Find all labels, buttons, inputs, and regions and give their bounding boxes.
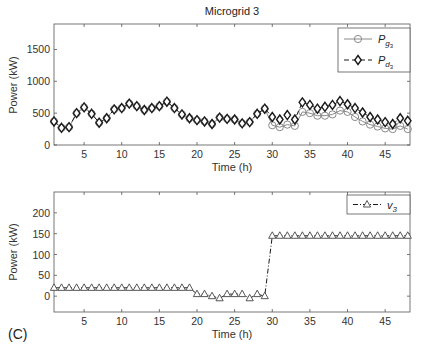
triangle-marker: [156, 284, 163, 290]
diamond-marker: [329, 100, 335, 109]
triangle-marker: [58, 284, 65, 290]
series-v-3: [50, 232, 411, 301]
triangle-marker: [178, 284, 185, 290]
x-axis-label: Time (h): [212, 161, 253, 173]
diamond-marker: [322, 102, 328, 111]
x-tick-label: 25: [229, 315, 241, 327]
x-tick-label: 30: [266, 315, 278, 327]
x-tick-label: 15: [154, 315, 166, 327]
diamond-marker: [389, 119, 395, 128]
series-p-g3: [50, 98, 411, 133]
y-tick-label: 0: [44, 139, 50, 151]
figure-title: Microgrid 3: [205, 5, 259, 17]
x-tick-label: 45: [379, 315, 391, 327]
x-tick-label: 5: [81, 315, 87, 327]
triangle-marker: [314, 232, 321, 238]
panel-label: (C): [8, 326, 27, 342]
triangle-marker: [382, 232, 389, 238]
triangle-marker: [201, 290, 208, 296]
x-tick-label: 35: [304, 315, 316, 327]
y-tick-label: 50: [38, 269, 50, 281]
x-tick-label: 35: [304, 148, 316, 160]
x-tick-label: 30: [266, 148, 278, 160]
triangle-marker: [344, 232, 351, 238]
triangle-marker: [118, 284, 125, 290]
bottom-plot: 51015202530354045050100150200Time (h)Pow…: [7, 192, 411, 340]
triangle-marker: [111, 284, 118, 290]
legend-box: [338, 28, 410, 72]
triangle-marker: [88, 284, 95, 290]
triangle-marker: [246, 294, 253, 300]
triangle-marker: [239, 290, 246, 296]
diamond-marker: [352, 104, 358, 113]
diamond-marker: [344, 100, 350, 109]
y-axis-label: Power (kW): [7, 223, 19, 280]
diamond-marker: [284, 111, 290, 120]
diamond-marker: [374, 115, 380, 124]
diamond-marker: [314, 104, 320, 113]
triangle-marker: [284, 232, 291, 238]
triangle-marker: [351, 232, 358, 238]
diamond-marker: [359, 108, 365, 117]
y-tick-label: 200: [32, 207, 50, 219]
triangle-marker: [329, 232, 336, 238]
triangle-marker: [299, 232, 306, 238]
triangle-marker: [269, 232, 276, 238]
x-axis-label: Time (h): [212, 328, 253, 340]
triangle-marker: [186, 284, 193, 290]
triangle-marker: [254, 290, 261, 296]
triangle-marker: [208, 292, 215, 298]
triangle-marker: [224, 290, 231, 296]
diamond-marker: [307, 100, 313, 109]
diamond-marker: [277, 115, 283, 124]
triangle-marker: [231, 290, 238, 296]
y-tick-label: 150: [32, 228, 50, 240]
diamond-marker: [299, 98, 305, 107]
triangle-marker: [336, 232, 343, 238]
triangle-marker: [148, 284, 155, 290]
triangle-marker: [81, 284, 88, 290]
x-tick-label: 20: [191, 148, 203, 160]
x-tick-label: 40: [342, 148, 354, 160]
figure: Microgrid 3 5101520253035404505001000150…: [0, 0, 422, 354]
triangle-marker: [193, 290, 200, 296]
triangle-marker: [367, 232, 374, 238]
triangle-marker: [291, 232, 298, 238]
x-tick-label: 15: [154, 148, 166, 160]
x-tick-label: 20: [191, 315, 203, 327]
triangle-marker: [133, 284, 140, 290]
triangle-marker: [103, 284, 110, 290]
triangle-marker: [141, 284, 148, 290]
triangle-marker: [397, 232, 404, 238]
triangle-marker: [306, 232, 313, 238]
triangle-marker: [321, 232, 328, 238]
y-tick-label: 1000: [27, 75, 51, 87]
y-tick-label: 500: [32, 107, 50, 119]
x-tick-label: 25: [229, 148, 241, 160]
triangle-marker: [359, 232, 366, 238]
x-tick-label: 10: [116, 315, 128, 327]
x-tick-label: 40: [342, 315, 354, 327]
triangle-marker: [276, 232, 283, 238]
triangle-marker: [65, 284, 72, 290]
x-tick-label: 10: [116, 148, 128, 160]
triangle-marker: [374, 232, 381, 238]
triangle-marker: [73, 284, 80, 290]
y-axis-label: Power (kW): [7, 56, 19, 113]
diamond-marker: [337, 97, 343, 106]
triangle-marker: [171, 284, 178, 290]
triangle-marker: [96, 284, 103, 290]
triangle-marker: [50, 284, 57, 290]
triangle-marker: [163, 284, 170, 290]
x-tick-label: 5: [81, 148, 87, 160]
legend: Pg3Pd3: [338, 28, 410, 72]
y-tick-label: 0: [44, 290, 50, 302]
x-tick-label: 45: [379, 148, 391, 160]
triangle-marker: [216, 294, 223, 300]
y-tick-label: 100: [32, 249, 50, 261]
legend: v3: [347, 195, 410, 214]
triangle-marker: [126, 284, 133, 290]
diamond-marker: [367, 112, 373, 121]
y-tick-label: 1500: [27, 43, 51, 55]
top-plot: 51015202530354045050010001500Time (h)Pow…: [7, 24, 411, 173]
